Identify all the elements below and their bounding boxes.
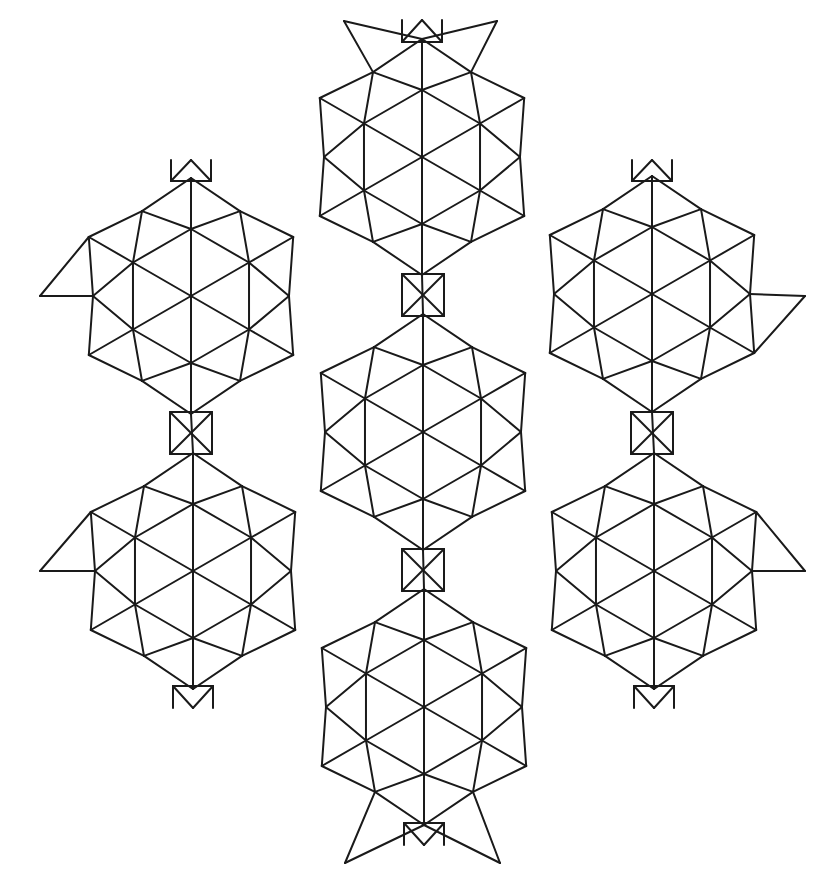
tiling-edge [712, 512, 756, 538]
tiling-edge [373, 72, 422, 90]
tiling-edge [93, 263, 133, 297]
tiling-edge [374, 347, 423, 365]
tiling-edge [603, 379, 652, 412]
tiling-edge [365, 432, 423, 466]
tiling-edge [91, 512, 135, 538]
tiling-edge [344, 21, 373, 72]
tiling-edge [366, 674, 424, 708]
tiling-edge [654, 538, 712, 572]
tiling-edge [193, 605, 251, 639]
tiling-edge [703, 630, 756, 656]
tiling-edge [321, 373, 365, 399]
tiling-edge [133, 296, 191, 330]
tiling-edge [594, 209, 603, 260]
tiling-edge [320, 98, 364, 124]
tiling-edge [321, 432, 325, 491]
tiling-edge [40, 512, 91, 571]
tiling-edge [756, 512, 805, 571]
tiling-edge [556, 538, 596, 572]
tiling-edge [422, 21, 497, 39]
tiling-edge [320, 157, 324, 216]
tiling-edge [373, 242, 422, 275]
tiling-edge [322, 741, 366, 767]
tiling-edge [191, 263, 249, 297]
tiling-edge [240, 211, 293, 237]
tiling-edge [322, 622, 375, 648]
tiling-edge [322, 648, 326, 707]
tiling-edge [366, 741, 424, 775]
tiling-edge [365, 399, 423, 433]
tiling-edge [320, 216, 373, 242]
tiling-edge [191, 211, 240, 229]
tiling-edge [326, 674, 366, 708]
tiling-edge [471, 191, 480, 242]
tiling-edge [654, 656, 703, 689]
tiling-edge [422, 157, 480, 191]
tiling-edge [251, 571, 291, 605]
tiling-edge [142, 381, 191, 414]
tiling-edge [364, 72, 373, 123]
tiling-edge [322, 766, 375, 792]
tiling-edge [95, 571, 135, 605]
tiling-edge [594, 328, 603, 379]
tiling-edge [374, 517, 423, 550]
tiling-edge [710, 261, 750, 295]
tiling-edge [193, 686, 213, 708]
tiling-edge [364, 191, 373, 242]
tiling-edge [289, 237, 293, 296]
tiling-edge [364, 124, 422, 158]
tiling-edge [654, 686, 674, 708]
tiling-edge [322, 648, 366, 674]
tiling-edge [193, 538, 251, 572]
tiling-edge [423, 517, 472, 550]
tiling-edge [191, 178, 240, 211]
tiling-edge [703, 605, 712, 656]
tiling-edge [423, 365, 481, 399]
tiling-edge [91, 630, 144, 656]
tiling-edge [471, 216, 524, 242]
tiling-edge [365, 466, 423, 500]
tiling-edge [703, 486, 712, 537]
tiling-edge [552, 571, 556, 630]
tiling-edge [373, 39, 422, 72]
tiling-edge [471, 21, 497, 72]
tiling-edge [91, 571, 95, 630]
tiling-edge [374, 499, 423, 517]
tiling-edge [191, 296, 249, 330]
tiling-edge [135, 605, 193, 639]
tiling-edge [473, 766, 526, 792]
tiling-edge [291, 571, 295, 630]
tiling-edge [375, 792, 424, 825]
tiling-edge [594, 328, 652, 362]
tiling-edge [472, 466, 481, 517]
tiling-edge [701, 209, 754, 235]
tiling-edge [191, 160, 211, 181]
tiling-edge [424, 589, 473, 622]
tiling-edge [423, 347, 472, 365]
tiling-edges [40, 20, 805, 863]
tiling-edge [472, 491, 525, 517]
tiling-edge [40, 237, 89, 296]
tiling-edge [552, 512, 556, 571]
tiling-edge [144, 656, 193, 689]
tiling-edge [142, 211, 191, 229]
tiling-edge [325, 399, 365, 433]
tiling-edge [251, 538, 291, 572]
tiling-edge [321, 466, 365, 492]
tiling-edge [89, 330, 133, 356]
tiling-edge [473, 622, 482, 673]
tiling-edge [365, 347, 374, 398]
tiling-edge [596, 605, 605, 656]
tiling-edge [424, 792, 473, 825]
tiling-edge [521, 432, 525, 491]
tiling-edge [322, 707, 326, 766]
tiling-edge [481, 432, 521, 466]
tiling-edge [652, 294, 710, 328]
tiling-edge [320, 72, 373, 98]
tiling-edge [249, 237, 293, 263]
tiling-edge [193, 656, 242, 689]
tiling-edge [364, 157, 422, 191]
tiling-edge [550, 353, 603, 379]
tiling-edge [701, 209, 710, 260]
tiling-edge [424, 741, 482, 775]
